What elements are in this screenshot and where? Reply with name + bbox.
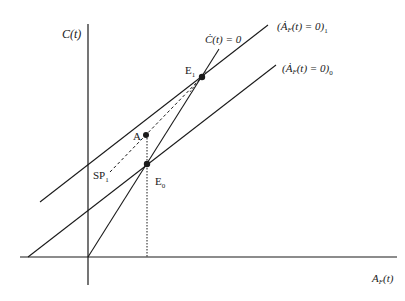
a-dot-zero-1-label: (ȦF(t) = 0)1 [277, 20, 328, 35]
y-axis-label: C(t) [62, 27, 81, 41]
sp1-label: SP1 [93, 169, 109, 184]
e1-label: E1 [185, 64, 196, 79]
x-axis-label: AF(t) [371, 272, 394, 286]
c-dot-zero-label: Ċ(t) = 0 [205, 33, 242, 46]
a-dot-zero-0-line [28, 65, 276, 257]
a-label: A [133, 130, 141, 142]
point-e1 [199, 74, 205, 80]
a-dot-zero-0-label: (ȦF(t) = 0)0 [282, 62, 333, 77]
point-a [143, 132, 149, 138]
e0-label: E0 [155, 175, 166, 190]
a-dot-zero-1-line [40, 25, 268, 202]
point-e0 [144, 161, 150, 167]
phase-diagram: C(t) AF(t) Ċ(t) = 0 (ȦF(t) = 0)1 (ȦF(t) … [0, 0, 405, 301]
